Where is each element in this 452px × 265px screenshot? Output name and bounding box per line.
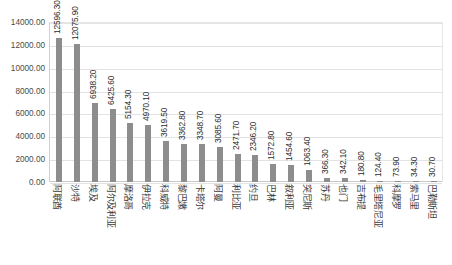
bar-slot: 30.70 — [425, 22, 443, 182]
x-axis-category-label[interactable]: 阿曼 — [212, 184, 225, 201]
bar[interactable] — [306, 170, 312, 182]
x-axis-category-label[interactable]: 也门 — [337, 184, 350, 201]
x-axis-category-label[interactable]: 沙特 — [69, 184, 82, 201]
bar-value-label: 34.30 — [409, 157, 419, 177]
bar[interactable] — [199, 144, 205, 182]
category-slot: 科威特 — [157, 184, 175, 262]
x-axis-category-label[interactable]: 阿尔及利亚 — [105, 184, 118, 228]
category-slot: 黎巴嫩 — [175, 184, 193, 262]
x-axis-category-label[interactable]: 黎巴嫩 — [176, 184, 189, 210]
bar-value-label: 6425.60 — [106, 75, 116, 104]
category-slot: 阿联酋 — [50, 184, 68, 262]
y-axis-tick-label: 8000.00 — [0, 86, 45, 95]
bar-value-label: 4970.10 — [141, 92, 151, 121]
bar-value-label: 342.10 — [338, 149, 348, 174]
bar-value-label: 1572.80 — [266, 131, 276, 160]
bar[interactable] — [288, 165, 294, 182]
bar-slot: 366.30 — [318, 22, 336, 182]
bar-value-label: 124.40 — [374, 152, 384, 177]
bar[interactable] — [252, 155, 258, 182]
bar-slot: 124.40 — [371, 22, 389, 182]
bar[interactable] — [377, 181, 383, 182]
bar-slot: 342.10 — [336, 22, 354, 182]
y-axis-tick-label: 14000.00 — [0, 18, 45, 27]
bar[interactable] — [163, 141, 169, 182]
x-axis-category-label[interactable]: 卡塔尔 — [194, 184, 207, 210]
bar-slot: 12075.90 — [68, 22, 86, 182]
bar-value-label: 12596.30 — [52, 0, 62, 34]
y-axis-tick-label: 4000.00 — [0, 132, 45, 141]
bar-chart: 14000.0012000.0010000.008000.006000.0040… — [0, 0, 452, 265]
bar-slot: 1454.60 — [282, 22, 300, 182]
x-axis-category-label[interactable]: 摩洛哥 — [123, 184, 136, 210]
bar[interactable] — [145, 125, 151, 182]
bar[interactable] — [413, 181, 419, 182]
category-slot: 索马里 — [407, 184, 425, 262]
category-slot: 苏丹 — [318, 184, 336, 262]
x-axis-category-label[interactable]: 苏丹 — [319, 184, 332, 201]
bar-slot: 2471.70 — [229, 22, 247, 182]
bar-slot: 180.80 — [354, 22, 372, 182]
category-slot: 阿曼 — [211, 184, 229, 262]
x-axis-category-label[interactable]: 巴林 — [265, 184, 278, 201]
x-axis-category-label[interactable]: 阿联酋 — [51, 184, 64, 210]
bar-value-label: 3085.60 — [213, 114, 223, 143]
bar[interactable] — [360, 180, 366, 182]
x-axis-category-label[interactable]: 突尼斯 — [301, 184, 314, 210]
bar-value-label: 3362.80 — [177, 110, 187, 139]
bar-value-label: 1063.40 — [302, 137, 312, 166]
x-axis-category-label[interactable]: 叙利亚 — [283, 184, 296, 210]
category-slot: 约旦 — [246, 184, 264, 262]
bar-value-label: 2471.70 — [231, 121, 241, 150]
bar[interactable] — [181, 144, 187, 182]
x-axis-category-label[interactable]: 巴勒斯坦 — [426, 184, 439, 219]
bar[interactable] — [92, 103, 98, 182]
bar-value-label: 5154.30 — [124, 90, 134, 119]
category-slot: 巴勒斯坦 — [425, 184, 443, 262]
bar-value-label: 1454.60 — [284, 132, 294, 161]
bar-slot: 12596.30 — [50, 22, 68, 182]
y-axis-tick-label: 2000.00 — [0, 155, 45, 164]
x-axis-category-label[interactable]: 索马里 — [408, 184, 421, 210]
x-axis-category-label[interactable]: 吉布提 — [355, 184, 368, 210]
bar-value-label: 2346.20 — [249, 122, 259, 151]
bar-value-label: 30.70 — [427, 157, 437, 177]
bar-slot: 6425.60 — [104, 22, 122, 182]
bar[interactable] — [56, 38, 62, 182]
category-slot: 伊拉克 — [139, 184, 157, 262]
bar[interactable] — [324, 178, 330, 182]
x-axis-category-label[interactable]: 伊拉克 — [140, 184, 153, 210]
category-slot: 吉布提 — [354, 184, 372, 262]
y-axis-tick-label: 12000.00 — [0, 40, 45, 49]
bar-value-label: 73.90 — [391, 157, 401, 177]
bar[interactable] — [74, 44, 80, 182]
bar-value-label: 366.30 — [320, 149, 330, 174]
bar[interactable] — [110, 109, 116, 182]
x-axis-category-label[interactable]: 埃及 — [87, 184, 100, 201]
bar-slot: 1063.40 — [300, 22, 318, 182]
y-axis-tick-label: 10000.00 — [0, 63, 45, 72]
bar-series: 12596.3012075.906938.206425.605154.30497… — [50, 22, 443, 182]
category-slot: 巴林 — [264, 184, 282, 262]
bar-slot: 73.90 — [389, 22, 407, 182]
category-slot: 也门 — [336, 184, 354, 262]
bar[interactable] — [235, 154, 241, 182]
category-slot: 摩洛哥 — [121, 184, 139, 262]
x-axis-category-label[interactable]: 利比亚 — [230, 184, 243, 210]
bar[interactable] — [431, 181, 437, 182]
bar[interactable] — [395, 181, 401, 182]
bar-value-label: 3619.50 — [159, 107, 169, 136]
bar-slot: 3362.80 — [175, 22, 193, 182]
x-axis-category-label[interactable]: 科摩罗 — [390, 184, 403, 210]
bar-slot: 3085.60 — [211, 22, 229, 182]
bar[interactable] — [127, 123, 133, 182]
x-axis-category-label[interactable]: 科威特 — [158, 184, 171, 210]
x-axis-category-label[interactable]: 约旦 — [248, 184, 261, 201]
bar[interactable] — [217, 147, 223, 182]
category-slot: 利比亚 — [229, 184, 247, 262]
bar-value-label: 6938.20 — [88, 69, 98, 98]
bar[interactable] — [270, 164, 276, 182]
x-axis-category-label[interactable]: 毛里塔尼亚 — [373, 184, 386, 228]
category-slot: 卡塔尔 — [193, 184, 211, 262]
bar[interactable] — [342, 178, 348, 182]
